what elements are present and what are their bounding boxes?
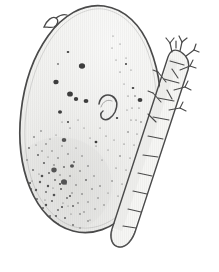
figure-canvas: Line drawing of an oval stippled body wi…: [0, 0, 219, 272]
illustration-svg: [0, 0, 219, 272]
